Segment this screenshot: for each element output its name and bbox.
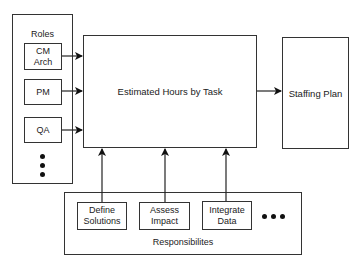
- role-cm-arch: CM Arch: [24, 43, 62, 70]
- staffing-plan-label: Staffing Plan: [289, 88, 343, 99]
- staffing-plan-box: Staffing Plan: [282, 37, 349, 149]
- resp-integrate-data: Integrate Data: [202, 201, 252, 230]
- roles-title: Roles: [12, 29, 73, 40]
- resp-assess-impact-label: Assess Impact: [150, 205, 179, 227]
- resp-integrate-data-label: Integrate Data: [209, 205, 245, 227]
- resp-define-solutions-label: Define Solutions: [83, 205, 120, 227]
- estimated-hours-box: Estimated Hours by Task: [83, 35, 257, 148]
- role-pm-label: PM: [36, 87, 50, 98]
- role-qa-label: QA: [36, 125, 49, 136]
- resp-define-solutions: Define Solutions: [77, 202, 127, 230]
- role-pm: PM: [24, 79, 62, 105]
- estimated-hours-label: Estimated Hours by Task: [118, 86, 223, 97]
- role-cm-arch-label: CM Arch: [34, 46, 53, 68]
- role-qa: QA: [24, 117, 62, 143]
- responsibilities-title: Responsibilites: [64, 237, 302, 248]
- resp-assess-impact: Assess Impact: [139, 202, 190, 230]
